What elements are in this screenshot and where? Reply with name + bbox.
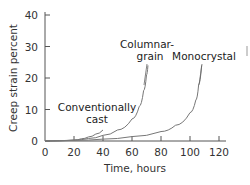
x-axis-title: Time, hours — [103, 162, 166, 174]
y-ticks: 010203040 — [25, 9, 50, 147]
x-tick-label: 100 — [180, 146, 200, 158]
y-tick-label: 20 — [25, 72, 38, 84]
x-tick-label: 20 — [67, 146, 80, 158]
y-tick-label: 10 — [25, 104, 38, 116]
label-columnar-grain-line2: grain — [137, 50, 164, 62]
x-ticks: 020406080100120 — [42, 136, 229, 158]
y-axis-title: Creep strain percent — [7, 24, 19, 132]
label-monocrystal: Monocrystal — [172, 50, 236, 62]
y-tick-label: 40 — [25, 9, 38, 21]
x-tick-label: 60 — [125, 146, 138, 158]
creep-chart: 010203040 020406080100120 Creep strain p… — [0, 0, 250, 185]
y-tick-label: 30 — [25, 41, 38, 53]
x-tick-label: 40 — [96, 146, 109, 158]
x-tick-label: 120 — [209, 146, 229, 158]
leader-monocrystal — [199, 64, 202, 85]
label-columnar-grain-line1: Columnar- — [120, 38, 174, 50]
label-conventionally-cast-line2: cast — [86, 113, 108, 125]
label-conventionally-cast-line1: Conventionally — [58, 101, 136, 113]
x-tick-label: 80 — [154, 146, 167, 158]
x-tick-label: 0 — [42, 146, 49, 158]
y-tick-label: 0 — [31, 135, 38, 147]
